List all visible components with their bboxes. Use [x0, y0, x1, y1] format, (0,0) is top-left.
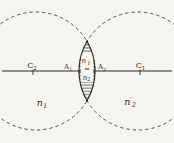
- lens-top-vertex-dot: [86, 41, 88, 43]
- lens-diagram-canvas: C2 A1 A2 C1 n′1 = n2 n1 n′2: [0, 0, 174, 143]
- optics-figure: C2 A1 A2 C1 n′1 = n2 n1 n′2: [0, 0, 174, 143]
- lens-equals-sign: =: [84, 65, 89, 73]
- lens-bottom-vertex-dot: [86, 99, 88, 101]
